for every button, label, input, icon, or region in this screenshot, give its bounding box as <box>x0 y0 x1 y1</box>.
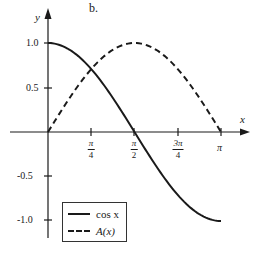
x-tick-label: π 2 <box>131 139 138 160</box>
legend: cos x A(x) <box>62 202 127 242</box>
x-tick-label: π 4 <box>88 139 95 160</box>
x-tick-label: 3π 4 <box>172 139 183 160</box>
a-x-curve <box>48 43 221 132</box>
y-tick-label: -1.0 <box>17 215 33 225</box>
panel-label: b. <box>89 2 98 14</box>
dashed-line-icon <box>68 230 90 232</box>
y-axis-arrow-icon <box>45 8 52 19</box>
chart-canvas <box>0 0 258 254</box>
y-axis-label: y <box>35 12 40 23</box>
y-tick-label: -0.5 <box>17 171 33 181</box>
y-tick-label: 1.0 <box>26 38 39 48</box>
solid-line-icon <box>68 213 90 215</box>
x-axis-label: x <box>240 114 245 125</box>
legend-item-a: A(x) <box>68 224 115 238</box>
y-tick-label: 0.5 <box>26 83 39 93</box>
legend-item-cos: cos x <box>68 207 119 221</box>
x-tick-label: π <box>217 143 222 153</box>
x-axis-arrow-icon <box>240 129 250 136</box>
